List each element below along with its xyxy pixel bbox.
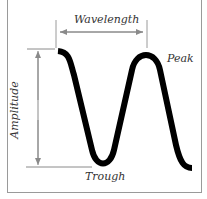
wavelength-label: Wavelength (74, 13, 139, 26)
wave-curve (58, 51, 192, 168)
trough-label: Trough (85, 170, 125, 183)
peak-label: Peak (167, 52, 194, 65)
amplitude-label: Amplitude (8, 81, 21, 139)
